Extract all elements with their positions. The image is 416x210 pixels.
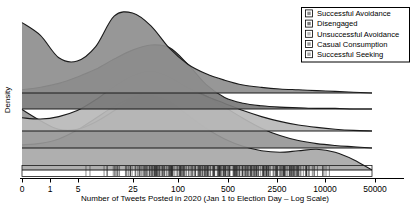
x-tick-label: 2500 — [268, 184, 287, 194]
legend-swatch — [307, 42, 310, 45]
y-axis-label-group: Density — [3, 87, 12, 114]
x-tick-label: 100 — [171, 184, 185, 194]
x-tick-label: 0 — [20, 184, 25, 194]
x-tick-label: 10000 — [313, 184, 337, 194]
legend-swatch — [307, 32, 310, 35]
x-tick-label: 500 — [221, 184, 235, 194]
legend-swatch — [307, 22, 310, 25]
legend-label: Successful Seeking — [317, 50, 383, 59]
x-axis-label: Number of Tweets Posted in 2020 (Jan 1 t… — [81, 194, 329, 203]
chart-canvas: Density 0152510050025001000050000 Number… — [0, 0, 416, 210]
legend-label: Successful Avoidance — [317, 9, 391, 18]
legend-label: Unsuccessful Avoidance — [317, 30, 399, 39]
x-tick-label: 50000 — [363, 184, 387, 194]
legend-label: Casual Consumption — [317, 40, 388, 49]
legend-label: Disengaged — [317, 19, 358, 28]
legend: Successful AvoidanceDisengagedUnsuccessf… — [302, 8, 410, 63]
legend-swatch — [307, 53, 310, 56]
x-tick-label: 1 — [48, 184, 53, 194]
x-tick-label: 25 — [128, 184, 138, 194]
ridgeline-chart: Density 0152510050025001000050000 Number… — [0, 0, 416, 210]
legend-swatch — [307, 12, 310, 15]
x-tick-label: 5 — [76, 184, 81, 194]
y-axis-label: Density — [3, 87, 12, 114]
